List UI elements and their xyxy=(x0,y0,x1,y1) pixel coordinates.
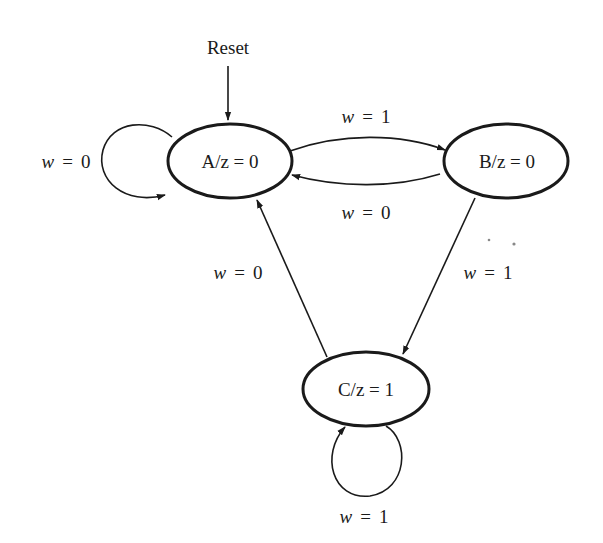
state-c-label: C/z = 1 xyxy=(338,379,394,400)
transition-b-c-label: w=1 xyxy=(464,262,513,283)
speck xyxy=(488,239,491,242)
state-b: B/z = 0 xyxy=(444,124,568,198)
speck xyxy=(512,242,515,245)
transition-c-a xyxy=(257,200,327,357)
transition-c-a-label: w=0 xyxy=(214,262,263,283)
state-diagram: Reset A/z = 0 B/z = 0 C/z = 1 w=0 w=1 w=… xyxy=(0,0,603,543)
state-b-label: B/z = 0 xyxy=(479,151,535,172)
transition-b-a-label: w=0 xyxy=(342,202,391,223)
transition-c-c-label: w=1 xyxy=(340,506,389,527)
transition-a-a xyxy=(102,125,172,198)
transition-b-a xyxy=(292,174,440,185)
transition-a-b xyxy=(290,137,445,151)
transition-a-b-label: w=1 xyxy=(342,106,391,127)
state-c: C/z = 1 xyxy=(303,352,429,426)
state-a-label: A/z = 0 xyxy=(201,151,258,172)
state-a: A/z = 0 xyxy=(168,124,292,198)
reset-label: Reset xyxy=(207,37,250,58)
transition-a-a-label: w=0 xyxy=(42,151,91,172)
transition-c-c xyxy=(332,426,402,496)
